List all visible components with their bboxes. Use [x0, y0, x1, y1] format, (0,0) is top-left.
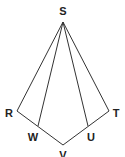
- edges: [17, 22, 109, 145]
- label-U: U: [87, 131, 95, 143]
- label-T: T: [113, 107, 120, 119]
- segment-SW: [38, 22, 63, 126]
- segment-SR: [17, 22, 63, 111]
- segment-SU: [63, 22, 88, 126]
- label-W: W: [28, 131, 39, 143]
- labels: S R T W U V: [5, 5, 120, 157]
- label-R: R: [5, 107, 13, 119]
- label-S: S: [59, 5, 66, 17]
- segment-ST: [63, 22, 109, 111]
- geometry-diagram: S R T W U V: [0, 0, 125, 157]
- label-V: V: [59, 149, 67, 157]
